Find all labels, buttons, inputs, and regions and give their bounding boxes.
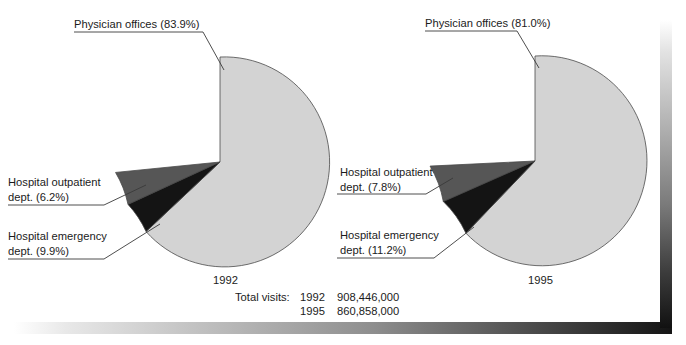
total-visits-block: Total visits: 1992 908,446,000 1995 860,… bbox=[235, 291, 399, 317]
figure-container: Physician offices (83.9%) Hospital outpa… bbox=[0, 0, 686, 345]
total-visits-row1-value: 908,446,000 bbox=[337, 291, 399, 303]
year-label-1992: 1992 bbox=[213, 274, 238, 286]
label-hospital-emergency-1992-line1: Hospital emergency bbox=[8, 230, 107, 242]
label-hospital-outpatient-1992-line1: Hospital outpatient bbox=[8, 176, 102, 188]
year-label-1995: 1995 bbox=[528, 274, 553, 286]
label-hospital-emergency-1995-line1: Hospital emergency bbox=[340, 229, 439, 241]
pie-chart-1992: Physician offices (83.9%) Hospital outpa… bbox=[8, 18, 330, 286]
total-visits-row1-year: 1992 bbox=[300, 291, 325, 303]
pie-chart-1995: Physician offices (81.0%) Hospital outpa… bbox=[337, 17, 647, 286]
slice-physician-offices-1995[interactable] bbox=[466, 56, 647, 266]
total-visits-row2-value: 860,858,000 bbox=[337, 305, 399, 317]
total-visits-row2-year: 1995 bbox=[300, 305, 325, 317]
pie-charts-figure: Physician offices (83.9%) Hospital outpa… bbox=[0, 0, 686, 345]
label-hospital-outpatient-1995-line2: dept. (7.8%) bbox=[340, 181, 401, 193]
total-visits-caption: Total visits: bbox=[235, 291, 290, 303]
shadow-bar-horizontal bbox=[14, 322, 672, 334]
label-hospital-outpatient-1992-line2: dept. (6.2%) bbox=[8, 191, 69, 203]
slice-physician-offices-1992[interactable] bbox=[146, 57, 330, 267]
leader-line-physician-offices-1992 bbox=[74, 32, 224, 70]
leader-line-physician-offices-1995 bbox=[425, 31, 539, 68]
label-physician-offices-1992: Physician offices (83.9%) bbox=[74, 18, 200, 30]
label-hospital-outpatient-1995-line1: Hospital outpatient bbox=[340, 166, 434, 178]
label-physician-offices-1995: Physician offices (81.0%) bbox=[425, 17, 551, 29]
label-hospital-emergency-1995-line2: dept. (11.2%) bbox=[340, 244, 407, 256]
shadow-bar-vertical bbox=[660, 20, 672, 328]
label-hospital-emergency-1992-line2: dept. (9.9%) bbox=[8, 245, 69, 257]
